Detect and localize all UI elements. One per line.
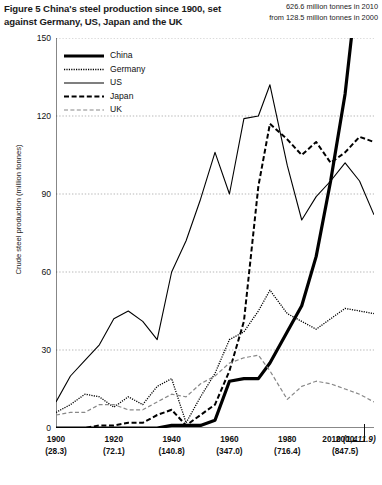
legend-label-germany: Germany	[110, 64, 145, 74]
annotation-line-1: 626.6 million tonnes in 2010	[226, 2, 378, 13]
legend-label-uk: UK	[110, 104, 122, 114]
y-tick-label: 150	[37, 33, 51, 43]
x-tick-world-total: (347.0)	[216, 446, 242, 458]
china-annotation: 626.6 million tonnes in 2010 from 128.5 …	[226, 2, 378, 23]
series-line-japan	[56, 124, 374, 428]
x-tick-1900: 1900(28.3)	[45, 434, 67, 457]
x-tick-world-total: (28.3)	[45, 446, 67, 458]
x-tick-world-total: (140.8)	[158, 446, 184, 458]
y-tick-label: 30	[41, 345, 51, 355]
x-tick-1920: 1920(72.1)	[103, 434, 125, 457]
x-tick-year: 1960	[216, 434, 242, 446]
y-tick-label: 90	[41, 189, 51, 199]
y-axis-label: Crude steel production (million tonnes)	[14, 100, 23, 320]
y-tick-label: 0	[46, 423, 51, 433]
series-line-us	[56, 85, 374, 402]
x-tick-2010-year: 2010	[322, 434, 340, 444]
legend-label-china: China	[110, 50, 132, 60]
x-tick-2010: 2010 (1,411.9)	[312, 434, 382, 446]
x-tick-world-total: (716.4)	[274, 446, 300, 458]
x-tick-world-total: (72.1)	[103, 446, 125, 458]
x-tick-year: 1920	[103, 434, 125, 446]
legend-label-us: US	[110, 77, 122, 87]
x-tick-year: 1940	[158, 434, 184, 446]
legend-label-japan: Japan	[110, 91, 133, 101]
x-tick-1980: 1980(716.4)	[274, 434, 300, 457]
annotation-line-2: from 128.5 million tonnes in 2000	[226, 13, 378, 24]
figure-title: Figure 5 China's steel production since …	[4, 2, 254, 28]
x-tick-1960: 1960(347.0)	[216, 434, 242, 457]
chart-svg	[56, 38, 374, 428]
x-tick-2010-world: (1,411.9)	[343, 434, 376, 444]
chart-plot-area: 03060901201501900(28.3)1920(72.1)1940(14…	[56, 38, 374, 428]
series-line-uk	[56, 355, 374, 415]
y-tick-label: 60	[41, 267, 51, 277]
x-tick-year: 1900	[45, 434, 67, 446]
x-tick-world-total: (847.5)	[332, 446, 358, 458]
x-tick-year: 1980	[274, 434, 300, 446]
y-tick-label: 120	[37, 111, 51, 121]
x-tick-1940: 1940(140.8)	[158, 434, 184, 457]
